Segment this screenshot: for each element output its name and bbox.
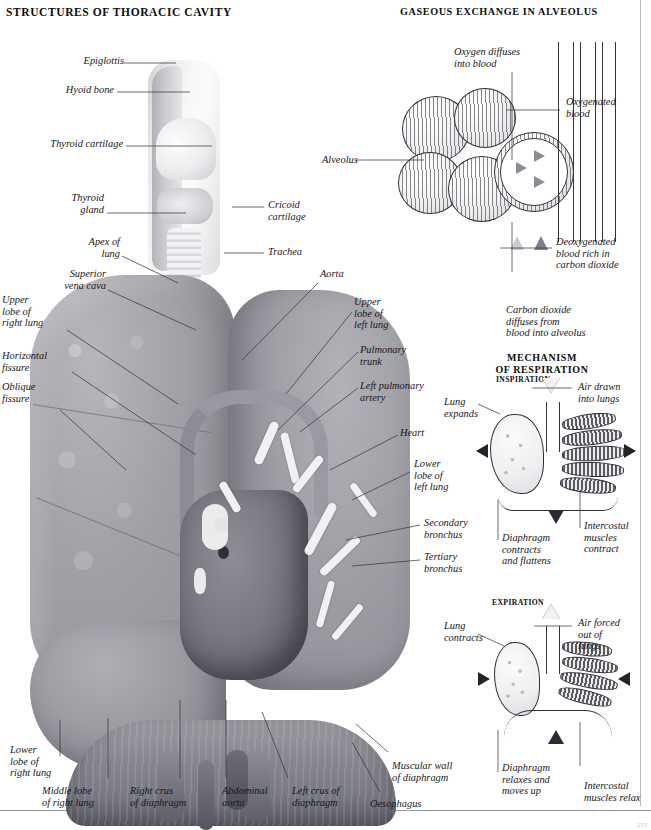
label-trachea: Trachea bbox=[268, 246, 330, 258]
leader-lines bbox=[0, 0, 651, 830]
label-abdominal-aorta: Abdominal aorta bbox=[222, 785, 290, 808]
label-oxygen-diffuses-into-blood: Oxygen diffuses into blood bbox=[454, 46, 554, 69]
label-carbon-dioxide-diffuses: Carbon dioxide diffuses from blood into … bbox=[506, 304, 616, 339]
label-deoxygenated-blood: Deoxygenated blood rich in carbon dioxid… bbox=[556, 236, 648, 271]
label-lower-lobe-right-lung: Lower lobe of right lung bbox=[10, 744, 70, 779]
label-muscular-wall-of-diaphragm: Muscular wall of diaphragm bbox=[392, 760, 476, 783]
label-lung-contracts: Lung contracts bbox=[444, 620, 498, 643]
label-heart: Heart bbox=[400, 427, 450, 439]
label-diaphragm-relaxes: Diaphragm relaxes and moves up bbox=[502, 762, 576, 797]
label-oesophagus: Oesophagus bbox=[370, 798, 446, 810]
label-upper-lobe-left-lung: Upper lobe of left lung bbox=[354, 296, 412, 331]
label-lower-lobe-left-lung: Lower lobe of left lung bbox=[414, 458, 472, 493]
label-diaphragm-contracts: Diaphragm contracts and flattens bbox=[502, 532, 574, 567]
label-cricoid-cartilage: Cricoid cartilage bbox=[268, 199, 338, 222]
label-apex-of-lung: Apex of lung bbox=[56, 236, 120, 259]
label-secondary-bronchus: Secondary bronchus bbox=[424, 517, 490, 540]
label-thyroid-gland: Thyroid gland bbox=[40, 192, 104, 215]
label-upper-lobe-right-lung: Upper lobe of right lung bbox=[2, 294, 64, 329]
label-middle-lobe-right-lung: Middle lobe of right lung bbox=[42, 785, 126, 808]
label-left-crus-of-diaphragm: Left crus of diaphragm bbox=[292, 785, 364, 808]
label-thyroid-cartilage: Thyroid cartilage bbox=[20, 138, 123, 150]
label-epiglottis: Epiglottis bbox=[40, 55, 124, 67]
label-intercostal-muscles-relax: Intercostal muscles relax bbox=[584, 780, 648, 803]
label-lung-expands: Lung expands bbox=[444, 396, 498, 419]
label-left-pulmonary-artery: Left pulmonary artery bbox=[360, 380, 432, 403]
label-aorta: Aorta bbox=[320, 268, 376, 280]
label-hyoid-bone: Hyoid bone bbox=[28, 84, 114, 96]
label-tertiary-bronchus: Tertiary bronchus bbox=[424, 551, 484, 574]
label-oxygenated-blood: Oxygenated blood bbox=[566, 96, 642, 119]
label-air-forced-out-of-lungs: Air forced out of lungs bbox=[578, 617, 644, 652]
anatomy-reference-page: STRUCTURES OF THORACIC CAVITY GASEOUS EX… bbox=[0, 0, 651, 830]
label-intercostal-muscles-contract: Intercostal muscles contract bbox=[584, 520, 648, 555]
label-superior-vena-cava: Superior vena cava bbox=[34, 268, 106, 291]
label-horizontal-fissure: Horizontal fissure bbox=[2, 350, 68, 373]
label-alveolus: Alveolus bbox=[322, 154, 382, 166]
label-right-crus-of-diaphragm: Right crus of diaphragm bbox=[130, 785, 214, 808]
label-air-drawn-into-lungs: Air drawn into lungs bbox=[578, 381, 644, 404]
label-pulmonary-trunk: Pulmonary trunk bbox=[360, 344, 428, 367]
label-oblique-fissure: Oblique fissure bbox=[2, 381, 62, 404]
